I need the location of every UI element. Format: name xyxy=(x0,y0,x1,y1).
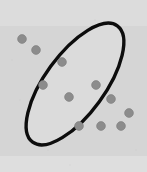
data-point[interactable] xyxy=(107,95,116,104)
data-point[interactable] xyxy=(92,81,101,90)
data-point[interactable] xyxy=(75,122,84,131)
background-band-footer xyxy=(0,156,147,172)
data-point[interactable] xyxy=(58,58,67,67)
data-point[interactable] xyxy=(117,122,126,131)
scatter-plot-svg xyxy=(0,0,147,172)
data-point[interactable] xyxy=(65,93,74,102)
figure-canvas xyxy=(0,0,147,172)
data-point[interactable] xyxy=(97,122,106,131)
background-band-upper xyxy=(0,0,147,26)
data-point[interactable] xyxy=(32,46,41,55)
data-point[interactable] xyxy=(125,109,134,118)
data-point[interactable] xyxy=(18,35,27,44)
data-point[interactable] xyxy=(39,81,48,90)
